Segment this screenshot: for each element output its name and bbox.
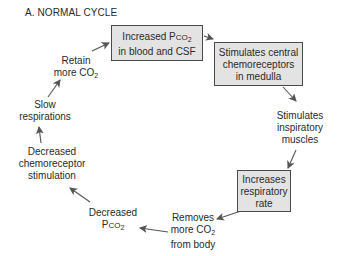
arrow-box2-to-inspiratory — [283, 87, 296, 101]
node-stimulates-inspiratory: Stimulates inspiratory muscles — [265, 110, 335, 146]
arrow-retain-to-box1 — [92, 43, 109, 51]
node-decreased-pco2: Decreased PCO2 — [83, 207, 143, 234]
node-slow-respirations: Slow respirations — [12, 99, 78, 123]
node-decreased-chemo: Decreased chemoreceptor stimulation — [12, 146, 92, 182]
node-increased-pco2: Increased PCO2 in blood and CSF — [111, 25, 203, 61]
arrow-inspiratory-to-box3 — [288, 150, 296, 168]
arrow-slow-to-retain — [48, 80, 60, 97]
node-removes-co2: Removes more CO2 from body — [164, 212, 222, 251]
arrow-pco2-to-chemo — [70, 188, 90, 202]
node-increases-rate: Increases respiratory rate — [237, 170, 291, 212]
arrow-box1-to-box2 — [204, 36, 213, 39]
arrow-chemo-to-slow — [39, 127, 41, 143]
node-retain-co2: Retain more CO2 — [46, 55, 106, 82]
node-stimulates-central: Stimulates central chemoreceptors in med… — [214, 42, 303, 86]
